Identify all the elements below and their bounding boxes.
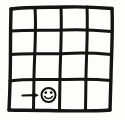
grid-hline-2 — [10, 53, 111, 54]
grid-drawing — [0, 0, 125, 120]
grid-vline-2 — [60, 7, 62, 110]
grid-border-left — [9, 9, 11, 110]
grid-hline-3 — [10, 79, 111, 81]
grid-border-right — [110, 9, 112, 111]
arrow-right-icon — [23, 92, 40, 98]
smiley-face-icon — [42, 88, 56, 102]
grid-hline-1 — [11, 30, 112, 32]
smiley-outer-circle — [42, 88, 56, 102]
sketch-canvas — [0, 0, 125, 120]
smiley-eye-left — [44, 91, 47, 94]
grid-vline-3 — [86, 7, 88, 111]
smiley-eye-right — [50, 91, 53, 94]
